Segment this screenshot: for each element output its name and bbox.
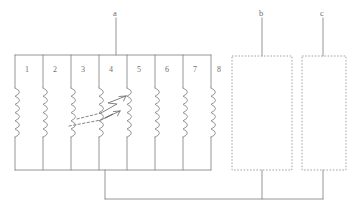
callout-label-c: c: [320, 9, 324, 18]
coil-cell-label-2: 2: [53, 66, 57, 74]
dashed-box-c: [302, 56, 346, 170]
coil-cell-label-1: 1: [25, 66, 29, 74]
callout-label-b: b: [259, 9, 263, 18]
coil-cell-label-6: 6: [165, 66, 169, 74]
fault-arrow-leader-upper: [77, 113, 101, 119]
fault-arrow-zigzag-upper: [101, 96, 126, 113]
coil-winding-3: [71, 88, 76, 137]
zigzag-fault-arrows: [69, 96, 126, 126]
coil-cell-label-3: 3: [81, 66, 85, 74]
dashed-box-b: [232, 56, 292, 170]
coil-cell-label-8: 8: [217, 66, 221, 74]
diagram-canvas: a b c 1 2 3 4 5 6 7 8: [0, 0, 358, 212]
coil-winding-6: [155, 88, 160, 137]
coil-winding-7: [183, 88, 188, 137]
coil-winding-5: [127, 88, 132, 137]
coil-winding-2: [43, 88, 48, 137]
callout-label-a: a: [113, 9, 117, 18]
coil-winding-8: [211, 88, 216, 137]
coil-winding-1: [15, 88, 20, 137]
coil-cell-label-5: 5: [137, 66, 141, 74]
fault-arrow-leader-lower: [69, 120, 101, 126]
coil-cell-label-7: 7: [193, 66, 197, 74]
fault-arrow-zigzag-lower: [101, 111, 120, 120]
schematic-svg: [0, 0, 358, 212]
coil-cell-label-4: 4: [109, 66, 113, 74]
